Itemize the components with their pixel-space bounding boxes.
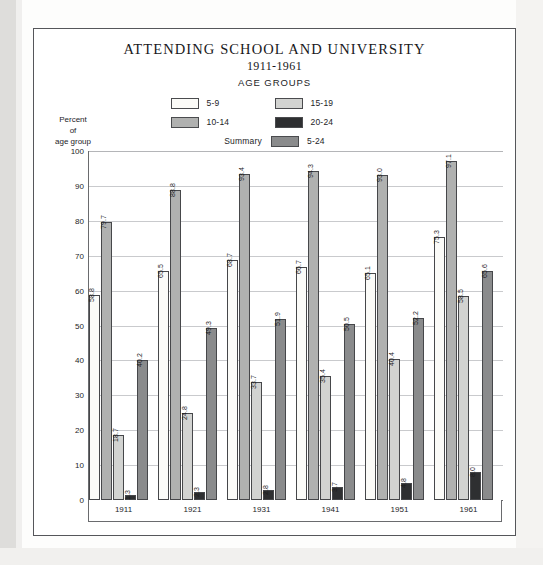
bar-value-label: 51.9 xyxy=(274,312,281,326)
bar-15-19-1941: 35.4 xyxy=(320,376,331,500)
bar-group-1951: 65.193.040.44.852.2 xyxy=(365,151,424,500)
bar-value-label: 4.8 xyxy=(400,478,407,488)
bar-value-label: 58.5 xyxy=(457,289,464,303)
y-axis-tick-label: 100 xyxy=(71,147,84,156)
bar-value-label: 93.4 xyxy=(238,167,245,181)
bar-group-1911: 58.879.718.71.340.2 xyxy=(89,151,148,500)
bar-15-19-1931: 33.7 xyxy=(251,382,262,500)
y-axis-tick-label: 40 xyxy=(75,356,84,365)
bar-5-24-1951: 52.2 xyxy=(413,318,424,500)
x-axis-tick-label-1961: 1961 xyxy=(460,505,478,514)
bar-value-label: 40.4 xyxy=(388,352,395,366)
scan-gutter-edge xyxy=(16,0,22,565)
x-axis-tick-label-1931: 1931 xyxy=(253,505,271,514)
bar-value-label: 40.2 xyxy=(136,353,143,367)
bar-5-9-1911: 58.8 xyxy=(89,295,100,500)
bar-value-label: 18.7 xyxy=(112,428,119,442)
bar-value-label: 65.5 xyxy=(157,264,164,278)
bar-5-9-1941: 66.7 xyxy=(296,267,307,500)
bar-15-19-1951: 40.4 xyxy=(389,359,400,500)
scan-bottom-margin xyxy=(0,548,543,565)
figure-frame: ATTENDING SCHOOL AND UNIVERSITY 1911-196… xyxy=(33,28,516,536)
y-axis-tick-label: 60 xyxy=(75,286,84,295)
bar-value-label: 50.5 xyxy=(343,317,350,331)
bar-value-label: 65.6 xyxy=(481,264,488,278)
bar-5-9-1951: 65.1 xyxy=(365,273,376,500)
bar-value-label: 97.1 xyxy=(445,154,452,168)
x-axis-tick-label-1911: 1911 xyxy=(115,505,132,514)
bar-10-14-1961: 97.1 xyxy=(446,161,457,500)
bar-10-14-1941: 94.3 xyxy=(308,171,319,500)
y-axis-tick-label: 20 xyxy=(75,426,84,435)
bar-5-24-1911: 40.2 xyxy=(137,360,148,500)
bar-value-label: 94.3 xyxy=(307,164,314,178)
bars-layer: 58.879.718.71.340.265.588.824.82.349.368… xyxy=(88,151,502,500)
bar-10-14-1911: 79.7 xyxy=(101,222,112,500)
bar-value-label: 93.0 xyxy=(376,168,383,182)
x-axis-tick-label-1951: 1951 xyxy=(391,505,409,514)
bar-value-label: 65.1 xyxy=(364,266,371,280)
bar-value-label: 58.8 xyxy=(88,288,95,302)
bar-20-24-1931: 2.8 xyxy=(263,490,274,500)
bar-5-24-1931: 51.9 xyxy=(275,319,286,500)
bar-value-label: 75.3 xyxy=(433,230,440,244)
bar-20-24-1941: 3.7 xyxy=(332,487,343,500)
plot-wrapper: 1009080706050403020100 58.879.718.71.340… xyxy=(34,29,517,537)
bar-15-19-1921: 24.8 xyxy=(182,413,193,500)
bar-10-14-1931: 93.4 xyxy=(239,174,250,500)
x-axis-tick-label-1941: 1941 xyxy=(322,505,340,514)
scan-right-margin xyxy=(516,0,543,565)
bar-value-label: 33.7 xyxy=(250,375,257,389)
bar-value-label: 68.7 xyxy=(226,253,233,267)
bar-value-label: 88.8 xyxy=(169,183,176,197)
bar-5-9-1931: 68.7 xyxy=(227,260,238,500)
bar-20-24-1951: 4.8 xyxy=(401,483,412,500)
bar-value-label: 52.2 xyxy=(412,311,419,325)
bar-group-1921: 65.588.824.82.349.3 xyxy=(158,151,217,500)
y-axis-tick-label: 50 xyxy=(75,321,84,330)
x-axis-band: 191119211931194119511961 xyxy=(88,500,502,522)
y-axis-tick-label: 0 xyxy=(80,496,84,505)
bar-5-9-1921: 65.5 xyxy=(158,271,169,500)
bar-value-label: 3.7 xyxy=(331,482,338,492)
y-axis-tick-label: 70 xyxy=(75,251,84,260)
y-axis-tick-label: 30 xyxy=(75,391,84,400)
bar-5-9-1961: 75.3 xyxy=(434,237,445,500)
bar-value-label: 35.4 xyxy=(319,369,326,383)
bar-15-19-1911: 18.7 xyxy=(113,435,124,500)
bar-10-14-1921: 88.8 xyxy=(170,190,181,500)
bar-value-label: 2.8 xyxy=(262,485,269,495)
bar-15-19-1961: 58.5 xyxy=(458,296,469,500)
bar-value-label: 49.3 xyxy=(205,321,212,335)
bar-value-label: 8.0 xyxy=(469,467,476,477)
bar-20-24-1921: 2.3 xyxy=(194,492,205,500)
y-axis-tick-label: 90 xyxy=(75,181,84,190)
bar-value-label: 24.8 xyxy=(181,406,188,420)
bar-value-label: 79.7 xyxy=(100,215,107,229)
bar-5-24-1961: 65.6 xyxy=(482,271,493,500)
bar-value-label: 2.3 xyxy=(193,487,200,497)
bar-5-24-1941: 50.5 xyxy=(344,324,355,500)
y-axis-tick-label: 80 xyxy=(75,216,84,225)
x-axis-tick-label-1921: 1921 xyxy=(184,505,202,514)
bar-value-label: 66.7 xyxy=(295,260,302,274)
bar-5-24-1921: 49.3 xyxy=(206,328,217,500)
bar-20-24-1961: 8.0 xyxy=(470,472,481,500)
bar-group-1931: 68.793.433.72.851.9 xyxy=(227,151,286,500)
bar-value-label: 1.3 xyxy=(124,490,131,500)
bar-group-1941: 66.794.335.43.750.5 xyxy=(296,151,355,500)
y-axis-tick-label: 10 xyxy=(75,461,84,470)
bar-10-14-1951: 93.0 xyxy=(377,175,388,500)
scan-gutter-shadow xyxy=(0,0,16,565)
bar-group-1961: 75.397.158.58.065.6 xyxy=(434,151,493,500)
